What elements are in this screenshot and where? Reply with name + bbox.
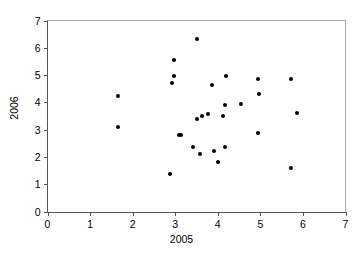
y-axis-tick: [44, 75, 48, 76]
x-axis-tick: [48, 212, 49, 216]
data-point: [221, 114, 225, 118]
y-axis-tick: [44, 130, 48, 131]
data-point: [223, 145, 227, 149]
x-axis-tick-label: 3: [172, 219, 178, 230]
data-point: [224, 74, 228, 78]
x-axis-tick-label: 2: [130, 219, 136, 230]
data-point: [198, 152, 202, 156]
x-axis-tick: [175, 212, 176, 216]
data-point: [116, 125, 120, 129]
data-point: [172, 58, 176, 62]
scatter-chart: 0123456701234567 2006 2005: [0, 0, 363, 259]
data-point: [256, 131, 260, 135]
x-axis-tick: [303, 212, 304, 216]
data-point: [256, 77, 260, 81]
data-point: [195, 117, 199, 121]
x-axis-tick: [90, 212, 91, 216]
data-point: [289, 166, 293, 170]
x-axis-tick: [133, 212, 134, 216]
data-point: [200, 114, 204, 118]
data-point: [172, 74, 176, 78]
y-axis-tick-label: 0: [35, 206, 41, 217]
data-point: [257, 92, 261, 96]
x-axis-tick-label: 7: [343, 219, 349, 230]
data-point: [210, 83, 214, 87]
y-axis-tick-label: 4: [35, 97, 41, 108]
data-point: [206, 112, 210, 116]
data-point: [195, 37, 199, 41]
y-axis-tick-label: 7: [35, 15, 41, 26]
y-axis-tick-label: 3: [35, 124, 41, 135]
y-axis-tick-label: 2: [35, 152, 41, 163]
x-axis-tick: [260, 212, 261, 216]
y-axis-tick: [44, 157, 48, 158]
y-axis-tick-label: 5: [35, 70, 41, 81]
x-axis-tick-label: 0: [45, 219, 51, 230]
data-point: [295, 111, 299, 115]
data-point: [116, 94, 120, 98]
data-point: [191, 145, 195, 149]
x-axis-label: 2005: [0, 233, 363, 245]
y-axis-tick: [44, 48, 48, 49]
data-point: [179, 133, 183, 137]
x-axis-tick-label: 5: [257, 219, 263, 230]
data-point: [223, 103, 227, 107]
data-point: [216, 160, 220, 164]
x-axis-tick-label: 4: [215, 219, 221, 230]
x-axis-tick: [346, 212, 347, 216]
plot-area: 0123456701234567: [47, 20, 347, 213]
y-axis-tick-label: 6: [35, 43, 41, 54]
y-axis-tick: [44, 102, 48, 103]
x-axis-tick: [218, 212, 219, 216]
data-point: [170, 81, 174, 85]
y-axis-tick: [44, 184, 48, 185]
data-point: [168, 172, 172, 176]
data-point: [239, 102, 243, 106]
y-axis-tick: [44, 21, 48, 22]
x-axis-tick-label: 1: [87, 219, 93, 230]
y-axis-tick-label: 1: [35, 179, 41, 190]
x-axis-tick-label: 6: [300, 219, 306, 230]
y-axis-label: 2006: [8, 78, 20, 138]
data-point: [212, 149, 216, 153]
data-point: [289, 77, 293, 81]
